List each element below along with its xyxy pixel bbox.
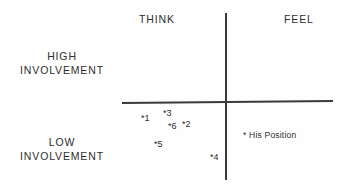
data-point-2: *2 — [182, 120, 191, 129]
quadrant-label-think: THINK — [139, 13, 175, 25]
axis-label-high-involvement: HIGH INVOLVEMENT — [14, 50, 110, 77]
data-point-4: *4 — [210, 153, 219, 162]
vertical-axis-line — [225, 13, 227, 180]
high-involvement-line-2: INVOLVEMENT — [14, 64, 110, 78]
data-point-3: *3 — [163, 109, 172, 118]
data-point-5: *5 — [154, 140, 163, 149]
horizontal-axis-line — [122, 100, 333, 104]
quadrant-label-feel: FEEL — [284, 13, 314, 25]
low-involvement-line-2: INVOLVEMENT — [14, 150, 110, 164]
axis-label-low-involvement: LOW INVOLVEMENT — [14, 136, 110, 163]
high-involvement-line-1: HIGH — [14, 50, 110, 64]
legend-his-position: * His Position — [243, 130, 296, 140]
data-point-1: *1 — [141, 114, 150, 123]
think-feel-grid-figure: THINK FEEL HIGH INVOLVEMENT LOW INVOLVEM… — [0, 0, 341, 188]
low-involvement-line-1: LOW — [14, 136, 110, 150]
data-point-6: *6 — [168, 122, 177, 131]
